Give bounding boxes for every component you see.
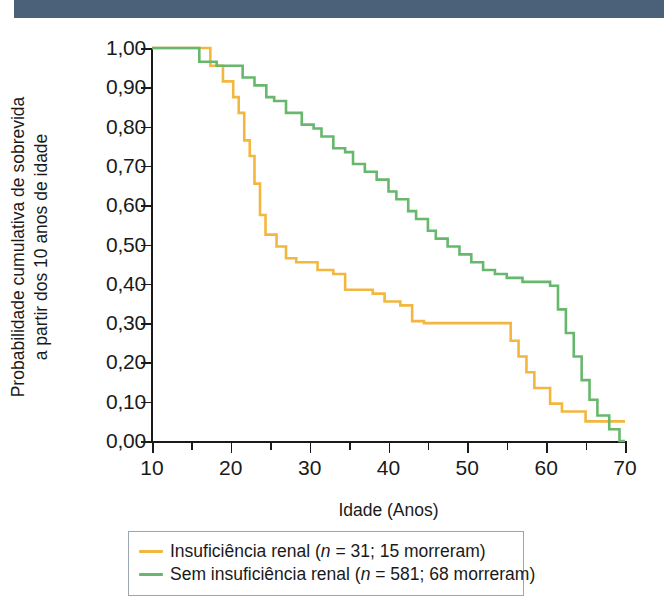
x-tick [428, 441, 430, 450]
legend-item: Insuficiência renal (n = 31; 15 morreram… [139, 540, 513, 563]
x-tick [625, 441, 627, 453]
curve-insuficiencia-renal [152, 48, 625, 421]
legend-label: Insuficiência renal (n = 31; 15 morreram… [170, 541, 486, 562]
x-tick [349, 441, 351, 450]
y-tick-label: 0,60 [106, 193, 146, 217]
x-tick-label: 70 [613, 456, 636, 480]
x-tick-label: 40 [377, 456, 400, 480]
y-tick-label: 1,00 [106, 36, 146, 60]
legend-color-swatch [139, 573, 163, 576]
chart-legend: Insuficiência renal (n = 31; 15 morreram… [128, 531, 524, 596]
window-title-bar [14, 0, 664, 18]
y-axis-title-line-1: Probabilidade cumulativa de sobrevida [7, 97, 30, 398]
y-axis-title: Probabilidade cumulativa de sobrevida a … [0, 32, 60, 462]
x-tick [310, 441, 312, 453]
x-tick-label: 10 [140, 456, 163, 480]
plot-area: 0,000,100,200,300,400,500,600,700,800,90… [152, 48, 625, 441]
x-tick [389, 441, 391, 453]
x-tick-label: 30 [298, 456, 321, 480]
y-tick-label: 0,70 [106, 154, 146, 178]
y-tick-label: 0,00 [106, 429, 146, 453]
x-tick [546, 441, 548, 453]
y-tick-label: 0,30 [106, 311, 146, 335]
legend-item: Sem insuficiência renal (n = 581; 68 mor… [139, 563, 513, 586]
x-tick [586, 441, 588, 450]
x-tick-label: 50 [456, 456, 479, 480]
y-axis-title-line-2: a partir dos 10 anos de idade [30, 97, 53, 398]
x-tick [191, 441, 193, 450]
y-tick-label: 0,90 [106, 75, 146, 99]
x-tick [152, 441, 154, 453]
y-tick-label: 0,20 [106, 350, 146, 374]
x-tick [507, 441, 509, 450]
y-tick-label: 0,10 [106, 390, 146, 414]
x-tick-label: 20 [219, 456, 242, 480]
y-tick-label: 0,50 [106, 233, 146, 257]
x-tick-label: 60 [535, 456, 558, 480]
x-tick [270, 441, 272, 450]
x-tick [231, 441, 233, 453]
legend-color-swatch [139, 550, 163, 553]
survival-curves [152, 48, 625, 441]
x-tick [467, 441, 469, 453]
y-tick-label: 0,40 [106, 272, 146, 296]
y-tick-label: 0,80 [106, 115, 146, 139]
x-axis-title: Idade (Anos) [152, 500, 625, 521]
curve-sem-insuficiencia-renal [152, 48, 625, 441]
survival-chart-figure: Probabilidade cumulativa de sobrevida a … [0, 18, 664, 616]
legend-label: Sem insuficiência renal (n = 581; 68 mor… [170, 564, 535, 585]
